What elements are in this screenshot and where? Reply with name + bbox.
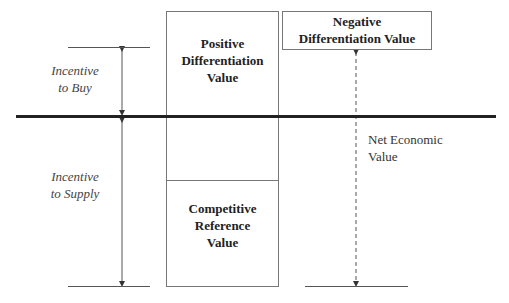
net-economic-value-label: Net Economic Value <box>368 131 478 165</box>
incentive-to-buy-label: Incentive to Buy <box>40 62 110 96</box>
price-line <box>16 115 496 118</box>
net-bottom-tick <box>305 286 408 287</box>
competitive-reference-label: Competitive Reference Value <box>166 200 279 251</box>
stack-divider <box>166 180 279 181</box>
supply-bottom-tick <box>68 286 150 287</box>
incentive-to-supply-label: Incentive to Supply <box>35 168 115 202</box>
value-diagram: Incentive to Buy Incentive to Supply Pos… <box>0 0 509 303</box>
negative-differentiation-label: Negative Differentiation Value <box>282 13 432 47</box>
buy-top-tick <box>68 47 150 48</box>
positive-differentiation-label: Positive Differentiation Value <box>166 35 279 86</box>
